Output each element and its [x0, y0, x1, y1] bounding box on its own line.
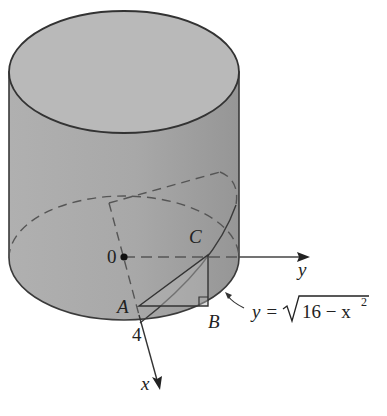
equation-radicand: 16 − x [302, 301, 351, 322]
y-axis-label: y [296, 259, 307, 280]
curve-equation: y = 16 − x 2 [250, 295, 369, 322]
point-b-label: B [208, 311, 220, 332]
curve-pointer-arrowhead [225, 292, 232, 299]
cylinder-wedge-diagram: 0 A B C 4 x y y = 16 − x 2 [0, 0, 387, 416]
origin-point [120, 253, 127, 260]
radius-label: 4 [132, 324, 142, 345]
cylinder-top [9, 11, 239, 133]
point-c-label: C [189, 226, 202, 247]
point-a-label: A [115, 296, 129, 317]
curve-pointer [228, 296, 244, 308]
origin-label: 0 [107, 246, 117, 267]
x-axis-label: x [140, 373, 150, 394]
equation-exponent: 2 [361, 295, 367, 309]
x-axis [139, 315, 157, 380]
equation-lhs: y = [250, 301, 278, 322]
diagram-canvas: 0 A B C 4 x y y = 16 − x 2 [0, 0, 387, 416]
